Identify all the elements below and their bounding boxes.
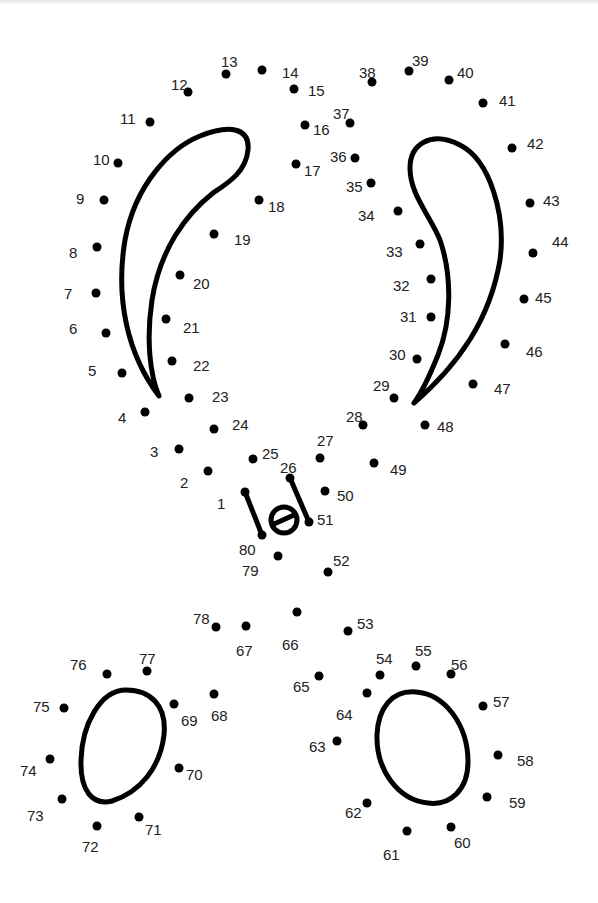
numbered-dot: 1 <box>217 488 250 513</box>
numbered-dot: 20 <box>176 271 210 293</box>
dot-marker <box>526 199 535 208</box>
dot-number-label: 1 <box>217 495 225 512</box>
dot-number-label: 34 <box>358 207 375 224</box>
dot-number-label: 76 <box>70 656 87 673</box>
numbered-dot: 76 <box>70 656 112 679</box>
dot-number-label: 64 <box>336 706 353 723</box>
dot-number-label: 45 <box>535 289 552 306</box>
numbered-dot: 58 <box>494 751 534 770</box>
numbered-dot: 25 <box>249 445 279 464</box>
numbered-dot: 45 <box>520 289 552 306</box>
dot-number-label: 57 <box>493 693 510 710</box>
numbered-dot: 8 <box>69 243 102 262</box>
dot-marker <box>305 518 314 527</box>
numbered-dot: 5 <box>88 362 127 379</box>
numbered-dot: 15 <box>290 82 325 99</box>
dot-marker <box>135 813 144 822</box>
dot-marker <box>315 672 324 681</box>
numbered-dot: 60 <box>447 823 471 852</box>
dot-marker <box>479 702 488 711</box>
dot-number-label: 24 <box>232 416 249 433</box>
numbered-dot: 61 <box>383 827 412 864</box>
dot-marker <box>344 627 353 636</box>
dot-number-label: 39 <box>412 52 429 69</box>
numbered-dot: 44 <box>529 233 569 258</box>
dot-marker <box>292 160 301 169</box>
numbered-dot: 62 <box>345 799 372 822</box>
dot-marker <box>210 230 219 239</box>
numbered-dot: 57 <box>479 693 510 711</box>
dot-marker <box>479 99 488 108</box>
dot-number-label: 30 <box>389 346 406 363</box>
numbered-dot: 68 <box>210 690 228 725</box>
dot-marker <box>210 425 219 434</box>
numbered-dot: 16 <box>301 121 330 139</box>
dot-to-dot-worksheet: 1234567891011121314151617181920212223242… <box>0 0 598 903</box>
numbered-dot: 69 <box>170 700 198 730</box>
numbered-dot: 17 <box>292 160 321 180</box>
dot-number-label: 49 <box>390 461 407 478</box>
dot-marker <box>370 459 379 468</box>
dot-marker <box>143 667 152 676</box>
dot-marker <box>324 568 333 577</box>
numbered-dot: 71 <box>135 813 162 839</box>
dot-marker <box>204 467 213 476</box>
dot-number-label: 38 <box>359 64 376 81</box>
numbered-dot: 55 <box>412 642 432 671</box>
dot-marker <box>483 793 492 802</box>
dot-marker <box>363 689 372 698</box>
dot-number-label: 3 <box>150 443 158 460</box>
dot-marker <box>416 240 425 249</box>
dot-number-label: 60 <box>454 834 471 851</box>
dot-number-label: 47 <box>494 380 511 397</box>
numbered-dot: 53 <box>344 615 374 636</box>
numbered-dot: 9 <box>76 190 109 207</box>
dot-marker <box>60 704 69 713</box>
numbered-dot: 29 <box>373 377 399 403</box>
dot-marker <box>241 488 250 497</box>
dot-number-label: 65 <box>293 678 310 695</box>
dot-marker <box>168 357 177 366</box>
numbered-dot: 73 <box>27 795 67 825</box>
dot-number-label: 73 <box>27 807 44 824</box>
numbered-dot: 48 <box>421 418 454 435</box>
numbered-dot: 3 <box>150 443 184 460</box>
numbered-dot: 63 <box>309 737 342 756</box>
dot-number-label: 68 <box>211 707 228 724</box>
numbered-dot: 11 <box>120 110 155 127</box>
numbered-dot: 46 <box>501 340 543 361</box>
numbered-dot: 39 <box>405 52 429 76</box>
dot-number-label: 25 <box>262 445 279 462</box>
dot-marker <box>363 799 372 808</box>
dot-number-label: 9 <box>76 190 84 207</box>
dot-number-label: 48 <box>437 418 454 435</box>
dot-number-label: 16 <box>313 121 330 138</box>
numbered-dot: 80 <box>239 531 267 559</box>
dot-number-label: 66 <box>282 636 299 653</box>
dot-number-label: 43 <box>543 192 560 209</box>
left-oval-outline <box>81 690 164 802</box>
numbered-dot: 6 <box>69 320 111 338</box>
dot-marker <box>351 154 360 163</box>
dot-number-label: 2 <box>180 474 188 491</box>
numbered-dot: 72 <box>82 822 102 856</box>
dot-number-label: 26 <box>280 459 297 476</box>
dot-marker <box>421 421 430 430</box>
dot-marker <box>316 454 325 463</box>
numbered-dot: 77 <box>139 650 156 676</box>
dot-number-label: 79 <box>242 562 259 579</box>
dot-marker <box>103 670 112 679</box>
dot-number-label: 58 <box>517 752 534 769</box>
dot-marker <box>175 445 184 454</box>
numbered-dot: 28 <box>346 408 368 430</box>
dot-marker <box>447 823 456 832</box>
numbered-dot: 56 <box>447 656 468 679</box>
dot-marker <box>46 755 55 764</box>
dot-marker <box>93 822 102 831</box>
center-button-slash <box>274 515 294 524</box>
dot-marker <box>520 295 529 304</box>
dot-number-label: 75 <box>33 698 50 715</box>
numbered-dot: 59 <box>483 793 526 812</box>
numbered-dot: 2 <box>180 467 213 492</box>
dot-marker <box>412 662 421 671</box>
